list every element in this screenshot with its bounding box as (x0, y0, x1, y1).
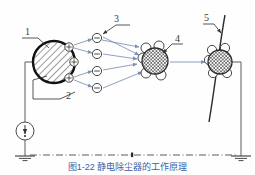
collected-dust-particle (204, 43, 232, 77)
negative-ion (92, 33, 101, 42)
diagram-canvas: 1 2 3 4 5 (0, 0, 255, 175)
figure-root: 1 2 3 4 5 图1-22 静电除尘器的工作原理 (0, 0, 255, 175)
negative-ion (92, 49, 101, 58)
negative-ion (92, 66, 101, 75)
ion-migration-arrows (74, 37, 205, 88)
hv-dc-source (16, 122, 34, 140)
callout-label-3: 3 (114, 13, 119, 24)
centerline-marker (131, 153, 133, 158)
callout-label-4: 4 (175, 33, 180, 44)
figure-caption: 图1-22 静电除尘器的工作原理 (0, 162, 255, 173)
ground-right (231, 156, 251, 161)
leader-3 (103, 25, 130, 34)
callout-label-5: 5 (204, 12, 209, 23)
positive-ion (65, 43, 73, 51)
negative-ions (92, 33, 101, 92)
callout-label-1: 1 (25, 26, 30, 37)
leader-4 (163, 44, 183, 53)
charged-dust-particle (138, 41, 168, 80)
leader-5 (203, 24, 221, 33)
positive-ion (65, 74, 73, 82)
dc-dot-icon (24, 135, 26, 137)
ground-left (15, 156, 35, 161)
callout-label-2: 2 (66, 90, 71, 101)
positive-ion (70, 58, 78, 66)
negative-ion (92, 83, 101, 92)
